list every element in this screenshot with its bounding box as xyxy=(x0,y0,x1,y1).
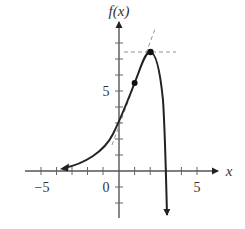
point-on-curve xyxy=(132,80,138,86)
function-graph: f(x) x −5 0 5 5 xyxy=(0,0,245,229)
y-tick-label-5: 5 xyxy=(103,84,110,99)
maximum-point xyxy=(147,49,153,55)
function-curve xyxy=(64,52,167,215)
x-tick-label-5: 5 xyxy=(194,180,201,195)
x-tick-label-neg5: −5 xyxy=(35,180,50,195)
x-axis-label: x xyxy=(225,163,233,179)
origin-label: 0 xyxy=(103,180,110,195)
y-axis-label: f(x) xyxy=(109,3,130,20)
